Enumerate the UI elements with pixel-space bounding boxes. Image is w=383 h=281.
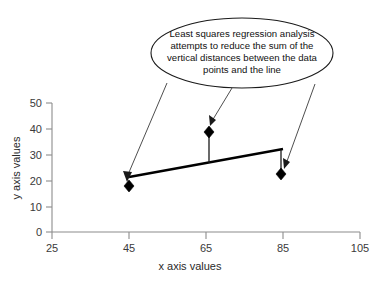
x-tick-label-25: 25	[46, 242, 58, 254]
x-tick-label-105: 105	[351, 242, 369, 254]
callout-line-2: attempts to reduce the sum of the	[171, 40, 314, 51]
callout-line-1: Least squares regression analysis	[169, 28, 314, 39]
chart-figure: 50 40 30 20 10 0 25 45 65 85 105 x axis …	[0, 0, 383, 281]
y-tick-label-0: 0	[36, 226, 42, 238]
y-tick-label-50: 50	[30, 97, 42, 109]
y-tick-label-30: 30	[30, 149, 42, 161]
x-tick-label-65: 65	[200, 242, 212, 254]
y-tick-label-20: 20	[30, 175, 42, 187]
x-tick-label-45: 45	[123, 242, 135, 254]
x-axis-title: x axis values	[159, 260, 222, 272]
callout-line-4: points and the line	[203, 64, 281, 75]
x-tick-label-85: 85	[277, 242, 289, 254]
y-tick-label-10: 10	[30, 201, 42, 213]
y-axis-title: y axis values	[10, 136, 22, 199]
y-tick-label-40: 40	[30, 123, 42, 135]
scatter-chart-canvas: 50 40 30 20 10 0 25 45 65 85 105 x axis …	[0, 0, 383, 281]
callout-line-3: vertical distances between the data	[167, 52, 318, 63]
